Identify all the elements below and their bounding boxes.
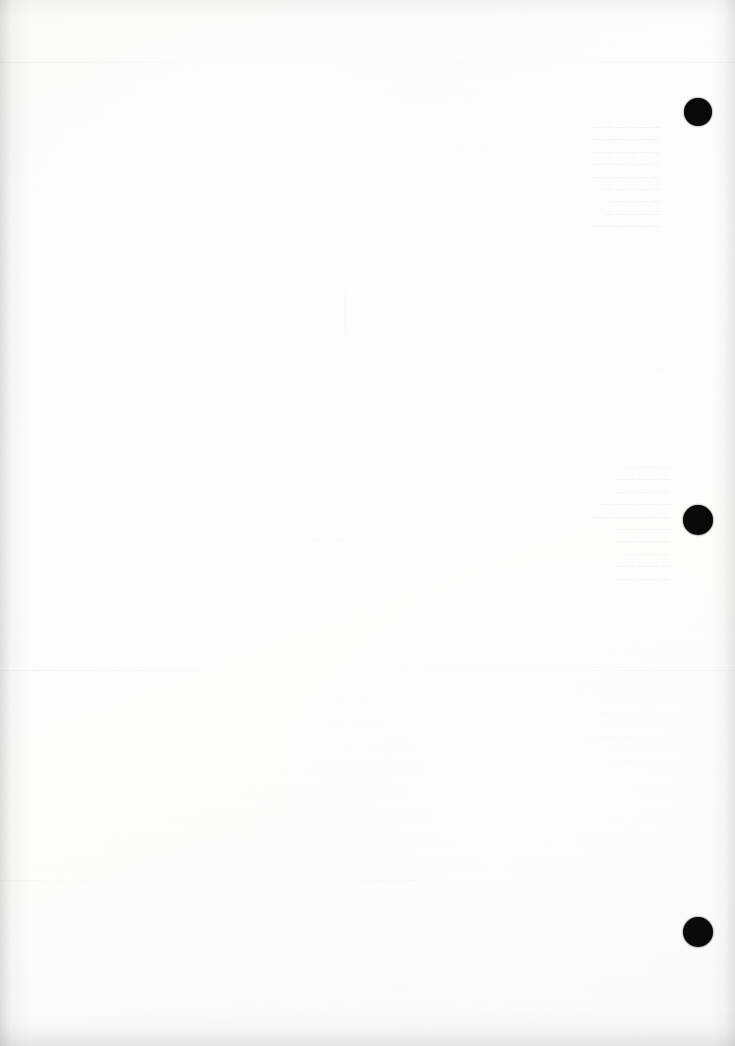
punch-mark-middle	[683, 505, 713, 535]
paper-background	[0, 0, 735, 1046]
punch-mark-bottom	[683, 917, 713, 947]
scanned-page: — — — — — — — — — — — — — — — — — — — — …	[0, 0, 735, 1046]
punch-mark-top	[684, 98, 712, 126]
